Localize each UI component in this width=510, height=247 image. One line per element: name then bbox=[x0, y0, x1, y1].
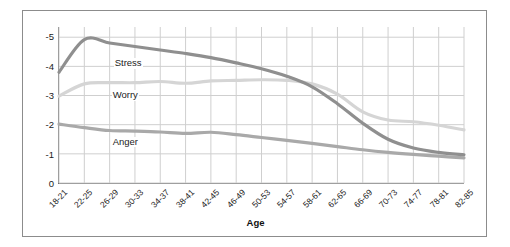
x-tick-label: 46-49 bbox=[225, 188, 246, 209]
series-label-anger: Anger bbox=[112, 137, 139, 147]
x-tick-label: 62-65 bbox=[327, 188, 348, 209]
series-label-worry: Worry bbox=[112, 90, 139, 100]
x-tick-label: 42-45 bbox=[200, 188, 221, 209]
x-tick-label: 34-37 bbox=[149, 188, 170, 209]
y-axis: -5-4-3-2-10 bbox=[23, 27, 54, 184]
plot-area: Stress Worry Anger bbox=[58, 27, 464, 184]
chart-figure-frame: -5-4-3-2-10 Stress Worry Anger 18-2122-2… bbox=[22, 10, 487, 237]
line-chart: -5-4-3-2-10 Stress Worry Anger 18-2122-2… bbox=[23, 11, 488, 238]
x-tick-label: 30-33 bbox=[124, 188, 145, 209]
x-axis-title: Age bbox=[23, 217, 488, 228]
x-tick-label: 54-57 bbox=[276, 188, 297, 209]
x-tick-label: 78-81 bbox=[428, 188, 449, 209]
x-tick-label: 58-61 bbox=[301, 188, 322, 209]
y-tick-label: -3 bbox=[24, 91, 54, 101]
y-tick-label: -1 bbox=[24, 150, 54, 160]
series-label-stress: Stress bbox=[114, 58, 143, 68]
y-tick-label: -4 bbox=[24, 62, 54, 72]
x-tick-label: 82-85 bbox=[454, 188, 475, 209]
x-tick-label: 26-29 bbox=[98, 188, 119, 209]
x-tick-label: 38-41 bbox=[174, 188, 195, 209]
x-tick-label: 22-25 bbox=[73, 188, 94, 209]
x-tick-label: 70-73 bbox=[377, 188, 398, 209]
y-tick-label: -5 bbox=[24, 33, 54, 43]
grid-lines bbox=[59, 27, 464, 183]
x-tick-label: 74-77 bbox=[403, 188, 424, 209]
y-tick-label: 0 bbox=[24, 179, 54, 189]
x-tick-label: 50-53 bbox=[251, 188, 272, 209]
x-tick-label: 18-21 bbox=[48, 188, 69, 209]
y-tick-label: -2 bbox=[24, 121, 54, 131]
x-tick-label: 66-69 bbox=[352, 188, 373, 209]
